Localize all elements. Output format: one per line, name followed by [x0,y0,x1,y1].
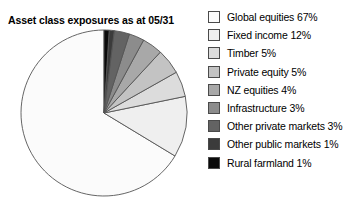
legend-item[interactable]: Fixed income 12% [208,26,358,44]
chart-legend: Global equities 67%Fixed income 12%Timbe… [208,8,358,172]
legend-label: Global equities 67% [227,11,318,23]
legend-label: Other private markets 3% [227,120,342,132]
legend-item[interactable]: Rural farmland 1% [208,154,358,172]
legend-label: Other public markets 1% [227,138,339,150]
pie-slice-group: Global equities 67%Fixed income 12%Timbe… [21,30,187,196]
legend-label: Infrastructure 3% [227,102,304,114]
legend-swatch [208,29,220,41]
legend-swatch [208,120,220,132]
legend-label: Rural farmland 1% [227,157,311,169]
legend-swatch [208,47,220,59]
legend-label: Private equity 5% [227,66,306,78]
legend-label: Fixed income 12% [227,29,311,41]
legend-label: Timber 5% [227,47,276,59]
legend-swatch [208,66,220,78]
legend-item[interactable]: NZ equities 4% [208,81,358,99]
legend-swatch [208,11,220,23]
legend-swatch [208,84,220,96]
legend-swatch [208,102,220,114]
legend-swatch [208,138,220,150]
legend-label: NZ equities 4% [227,84,296,96]
pie-plot-area: Global equities 67%Fixed income 12%Timbe… [18,27,190,199]
legend-swatch [208,157,220,169]
legend-item[interactable]: Private equity 5% [208,63,358,81]
legend-item[interactable]: Infrastructure 3% [208,99,358,117]
legend-item[interactable]: Other public markets 1% [208,135,358,153]
legend-item[interactable]: Global equities 67% [208,8,358,26]
chart-title: Asset class exposures as at 05/31 [8,14,208,26]
pie-chart-figure: Asset class exposures as at 05/31 Global… [0,0,360,202]
legend-item[interactable]: Timber 5% [208,44,358,62]
pie-svg: Global equities 67%Fixed income 12%Timbe… [18,27,190,199]
legend-item[interactable]: Other private markets 3% [208,117,358,135]
